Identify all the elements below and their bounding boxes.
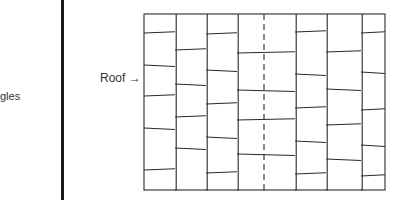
shingle-course-line [206, 70, 237, 72]
roof-shingle-diagram [0, 0, 394, 200]
shingle-course-line [295, 31, 326, 32]
shingle-course-line [206, 172, 237, 173]
shingle-course-line [295, 141, 326, 143]
shingle-course-line [361, 109, 385, 110]
shingle-course-line [295, 173, 326, 174]
shingle-column-edge [175, 14, 176, 190]
shingle-course-line [175, 49, 206, 50]
shingle-course-line [144, 95, 175, 96]
shingle-course-line [361, 32, 385, 33]
shingle-course-line [295, 107, 326, 108]
shingle-course-line [144, 128, 175, 130]
shingle-column-edge [237, 14, 238, 190]
shingle-course-line [361, 72, 385, 74]
shingle-course-line [237, 52, 295, 53]
shingle-column-edge [295, 14, 296, 190]
shingle-course-line [326, 124, 361, 125]
shingle-course-line [206, 137, 237, 139]
shingle-column-edge [206, 14, 207, 190]
shingle-course-line [206, 103, 237, 104]
shingle-course-line [144, 32, 175, 33]
shingle-course-line [361, 175, 385, 176]
shingle-course-line [326, 51, 361, 52]
shingle-course-line [175, 116, 206, 117]
shingle-course-line [237, 154, 295, 156]
shingle-course-line [144, 169, 175, 170]
shingle-course-line [175, 84, 206, 86]
shingle-course-line [326, 159, 361, 161]
shingle-pattern [144, 14, 385, 190]
shingle-course-line [326, 89, 361, 91]
shingle-course-line [237, 119, 295, 120]
shingle-course-line [237, 90, 295, 92]
shingle-course-line [295, 74, 326, 76]
shingle-course-line [361, 145, 385, 147]
shingle-column-edge [361, 14, 362, 190]
shingle-course-line [175, 148, 206, 150]
shingle-column-edge [326, 14, 327, 190]
roof-outline [144, 14, 385, 190]
shingle-course-line [144, 65, 175, 67]
shingle-course-line [206, 33, 237, 34]
